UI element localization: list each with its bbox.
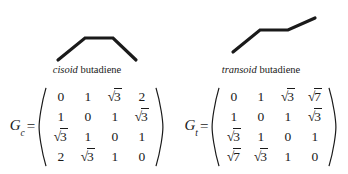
matrix-cell-r3c1: √3	[47, 127, 74, 147]
cisoid-structure-figure	[0, 5, 174, 63]
square-root-icon: √3	[81, 148, 95, 166]
transoid-right-parenthesis-icon	[328, 87, 337, 167]
matrix-cell-r1c3: √3	[274, 87, 301, 107]
transoid-left-parenthesis-icon	[211, 87, 220, 167]
matrix-entry-value: 0	[312, 149, 319, 164]
matrix-cell-r4c2: √3	[247, 147, 274, 167]
matrix-cell-r1c1: 0	[220, 87, 247, 107]
transoid-butadiene-skeleton-icon	[174, 5, 348, 63]
matrix-row: 101√3	[47, 107, 155, 127]
matrix-cell-r3c4: 1	[301, 127, 328, 147]
transoid-structure-figure	[174, 5, 348, 63]
cisoid-matrix: 01√32101√3√31012√310	[38, 87, 164, 167]
transoid-matrix-symbol-letter: G	[185, 117, 196, 133]
cisoid-equals-sign: =	[27, 118, 35, 136]
transoid-equals-sign: =	[200, 118, 208, 136]
cisoid-matrix-grid: 01√32101√3√31012√310	[47, 87, 155, 167]
transoid-matrix-equation: Gt = 01√3√7101√3√3101√7√310	[174, 80, 348, 174]
transoid-compound-word: butadiene	[257, 64, 300, 75]
matrix-entry-value: 0	[138, 149, 145, 164]
matrix-cell-r1c2: 1	[247, 87, 274, 107]
matrix-entry-value: 2	[57, 149, 64, 164]
square-root-icon: √3	[308, 108, 322, 126]
matrix-cell-r2c2: 0	[74, 107, 101, 127]
matrix-cell-r1c2: 1	[74, 87, 101, 107]
matrix-entry-value: 1	[312, 129, 319, 144]
matrix-cell-r4c4: 0	[128, 147, 155, 167]
square-root-icon: √3	[227, 128, 241, 146]
matrix-cell-r4c3: 1	[274, 147, 301, 167]
matrix-entry-value: 1	[231, 109, 238, 124]
matrix-entry-value: 1	[111, 109, 118, 124]
matrix-entry-value: 0	[285, 129, 292, 144]
matrix-cell-r2c4: √3	[128, 107, 155, 127]
matrix-cell-r1c3: √3	[101, 87, 128, 107]
transoid-matrix-grid: 01√3√7101√3√3101√7√310	[220, 87, 328, 167]
cisoid-left-parenthesis-icon	[38, 87, 47, 167]
matrix-cell-r2c1: 1	[220, 107, 247, 127]
matrix-cell-r4c4: 0	[301, 147, 328, 167]
matrix-entry-value: 1	[84, 129, 91, 144]
transoid-conformer-word: transoid	[222, 64, 257, 75]
matrix-row: 2√310	[47, 147, 155, 167]
panel-cisoid: cisoid butadiene Gc = 01√32101√3√31012√3…	[0, 0, 174, 174]
cisoid-compound-word: butadiene	[78, 64, 121, 75]
matrix-row: √3101	[220, 127, 328, 147]
matrix-cell-r1c4: √7	[301, 87, 328, 107]
matrix-entry-value: 0	[111, 129, 118, 144]
cisoid-matrix-equation: Gc = 01√32101√3√31012√310	[0, 80, 174, 174]
matrix-entry-value: 0	[57, 89, 64, 104]
matrix-row: 101√3	[220, 107, 328, 127]
matrix-cell-r4c2: √3	[74, 147, 101, 167]
matrix-entry-value: 1	[258, 129, 265, 144]
matrix-cell-r3c2: 1	[247, 127, 274, 147]
matrix-entry-value: 1	[285, 149, 292, 164]
matrix-row: √7√310	[220, 147, 328, 167]
matrix-row: √3101	[47, 127, 155, 147]
matrix-cell-r2c3: 1	[274, 107, 301, 127]
square-root-icon: √3	[281, 88, 295, 106]
matrix-entry-value: 1	[57, 109, 64, 124]
transoid-matrix-symbol-subscript: t	[195, 128, 198, 138]
matrix-cell-r3c2: 1	[74, 127, 101, 147]
cisoid-matrix-symbol-subscript: c	[21, 128, 25, 138]
matrix-cell-r1c4: 2	[128, 87, 155, 107]
panel-transoid: transoid butadiene Gt = 01√3√7101√3√3101…	[174, 0, 348, 174]
matrix-entry-value: 0	[84, 109, 91, 124]
square-root-icon: √3	[108, 88, 122, 106]
matrix-cell-r4c3: 1	[101, 147, 128, 167]
square-root-icon: √7	[227, 148, 241, 166]
cisoid-species-label: cisoid butadiene	[0, 63, 174, 76]
square-root-icon: √7	[308, 88, 322, 106]
matrix-cell-r4c1: √7	[220, 147, 247, 167]
matrix-row: 01√3√7	[220, 87, 328, 107]
matrix-entry-value: 1	[84, 89, 91, 104]
matrix-entry-value: 0	[258, 109, 265, 124]
square-root-icon: √3	[54, 128, 68, 146]
matrix-entry-value: 0	[231, 89, 238, 104]
matrix-cell-r4c1: 2	[47, 147, 74, 167]
transoid-matrix-symbol: Gt	[185, 117, 198, 137]
matrix-entry-value: 1	[285, 109, 292, 124]
matrix-entry-value: 1	[138, 129, 145, 144]
matrix-cell-r2c3: 1	[101, 107, 128, 127]
cisoid-right-parenthesis-icon	[155, 87, 164, 167]
cisoid-matrix-symbol: Gc	[10, 117, 25, 137]
matrix-cell-r2c1: 1	[47, 107, 74, 127]
matrix-row: 01√32	[47, 87, 155, 107]
matrix-cell-r2c2: 0	[247, 107, 274, 127]
matrix-entry-value: 1	[111, 149, 118, 164]
cisoid-butadiene-skeleton-icon	[0, 5, 174, 63]
matrix-entry-value: 1	[258, 89, 265, 104]
matrix-cell-r3c4: 1	[128, 127, 155, 147]
cisoid-conformer-word: cisoid	[53, 64, 78, 75]
matrix-entry-value: 2	[138, 89, 145, 104]
matrix-cell-r3c3: 0	[274, 127, 301, 147]
matrix-cell-r3c3: 0	[101, 127, 128, 147]
square-root-icon: √3	[254, 148, 268, 166]
matrix-cell-r3c1: √3	[220, 127, 247, 147]
transoid-matrix: 01√3√7101√3√3101√7√310	[211, 87, 337, 167]
matrix-cell-r1c1: 0	[47, 87, 74, 107]
cisoid-matrix-symbol-letter: G	[10, 117, 21, 133]
matrix-cell-r2c4: √3	[301, 107, 328, 127]
